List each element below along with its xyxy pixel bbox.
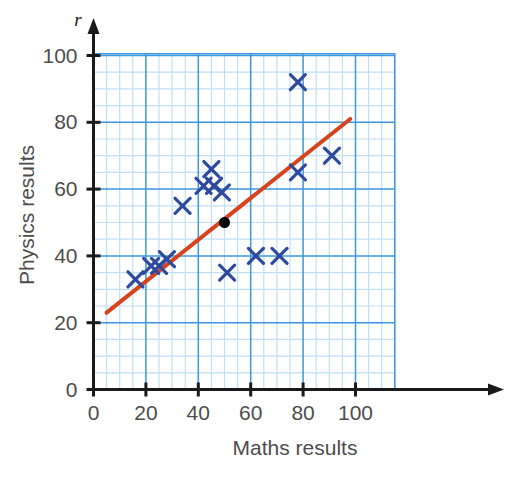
plot-canvas: 020406080100 020406080100 r Maths result… xyxy=(0,0,518,479)
x-tick-label: 80 xyxy=(291,401,314,424)
line-of-best-fit xyxy=(107,119,351,313)
y-tick-label: 100 xyxy=(42,44,77,67)
x-axis-title: Maths results xyxy=(233,436,358,459)
data-point-marker xyxy=(128,272,143,287)
trend-line-group xyxy=(107,119,351,313)
grid-minor-lines xyxy=(94,54,395,390)
mean-point-marker xyxy=(219,217,230,228)
y-tick-label: 80 xyxy=(54,110,77,133)
y-tick-label: 60 xyxy=(54,177,77,200)
x-tick-label: 40 xyxy=(187,401,210,424)
data-point-markers xyxy=(128,75,340,287)
scatter-chart: 020406080100 020406080100 r Maths result… xyxy=(0,0,518,479)
x-tick-label: 100 xyxy=(338,401,373,424)
data-point-marker xyxy=(214,185,229,200)
y-axis-arrow xyxy=(88,18,100,34)
x-tick-label: 60 xyxy=(239,401,262,424)
x-tick-label: 0 xyxy=(88,401,100,424)
y-tick-label: 0 xyxy=(66,378,78,401)
y-tick-label: 40 xyxy=(54,244,77,267)
y-tick-label: 20 xyxy=(54,311,77,334)
y-tick-labels: 020406080100 xyxy=(42,44,77,401)
y-axis-title: Physics results xyxy=(15,145,38,285)
x-tick-labels: 020406080100 xyxy=(88,401,373,424)
x-tick-label: 20 xyxy=(134,401,157,424)
y-axis-variable-label: r xyxy=(74,9,82,30)
x-axis-arrow xyxy=(488,384,504,396)
